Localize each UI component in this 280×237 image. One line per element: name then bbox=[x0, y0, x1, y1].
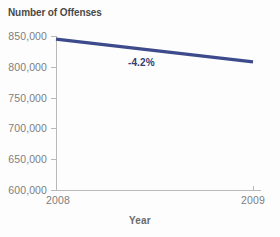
x-axis-title: Year bbox=[0, 215, 280, 226]
x-axis-tick-label: 2008 bbox=[46, 194, 70, 206]
y-axis-tick bbox=[51, 67, 56, 68]
y-axis-tick-label: 700,000 bbox=[8, 122, 47, 134]
x-axis-tick-label: 2009 bbox=[241, 194, 265, 206]
y-axis-tick-label: 600,000 bbox=[8, 184, 47, 196]
chart-figure: Number of Offenses 850,000800,000750,000… bbox=[0, 0, 280, 237]
y-axis-tick bbox=[51, 190, 56, 191]
y-axis-tick bbox=[51, 128, 56, 129]
x-axis-line bbox=[56, 190, 261, 191]
x-axis-tick bbox=[253, 186, 254, 191]
y-axis-tick-label: 750,000 bbox=[8, 92, 47, 104]
y-axis-tick-label: 850,000 bbox=[8, 30, 47, 42]
chart-title: Number of Offenses bbox=[8, 7, 102, 18]
y-axis-tick bbox=[51, 159, 56, 160]
y-axis-line bbox=[56, 36, 57, 191]
y-axis-tick-label: 800,000 bbox=[8, 61, 47, 73]
y-axis-tick bbox=[51, 98, 56, 99]
y-axis-tick-label: 650,000 bbox=[8, 153, 47, 165]
percent-change-annotation: -4.2% bbox=[128, 57, 155, 68]
y-axis-tick bbox=[51, 36, 56, 37]
